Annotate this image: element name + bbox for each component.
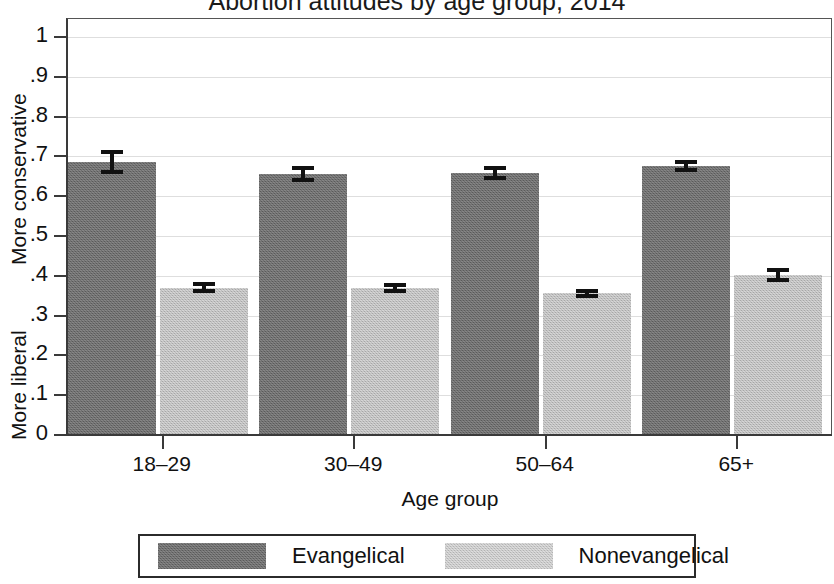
y-axis-tick-label: .8 — [8, 104, 48, 126]
y-axis-tick-label: 0 — [8, 422, 48, 444]
plot-area — [66, 18, 832, 435]
bar-evangelical — [451, 173, 539, 435]
y-axis-tick-label: .5 — [8, 223, 48, 245]
y-axis-tick — [54, 315, 66, 317]
legend-entry-evangelical[interactable]: Evangelical — [158, 543, 405, 569]
error-bar-cap-bottom — [193, 289, 215, 293]
bar-evangelical — [68, 162, 156, 435]
y-axis-tick-label: .7 — [8, 143, 48, 165]
error-bar-cap-bottom — [101, 170, 123, 174]
chart-figure: Abortion attitudes by age group, 2014 Mo… — [0, 0, 834, 584]
bar-nonevangelical — [160, 288, 248, 435]
error-bar-cap-bottom — [675, 168, 697, 172]
error-bar — [642, 160, 730, 173]
error-bar-cap-bottom — [384, 289, 406, 293]
y-axis-tick-label: .6 — [8, 183, 48, 205]
y-axis-tick-label: .3 — [8, 303, 48, 325]
y-axis-tick — [54, 76, 66, 78]
plot-inner — [68, 19, 831, 435]
error-bar — [734, 268, 822, 282]
legend-label-nonevangelical: Nonevangelical — [579, 544, 729, 568]
x-axis-tick — [353, 435, 355, 449]
legend-label-evangelical: Evangelical — [292, 544, 405, 568]
y-axis-tick — [54, 434, 66, 436]
gridline — [68, 156, 831, 157]
y-axis-tick-label: .2 — [8, 342, 48, 364]
error-bar-cap-bottom — [767, 278, 789, 282]
x-axis-tick-label: 65+ — [656, 452, 816, 476]
y-axis-tick-label: 1 — [8, 24, 48, 46]
error-bar — [160, 282, 248, 293]
bar-nonevangelical — [734, 275, 822, 435]
legend-swatch-evangelical — [158, 543, 266, 569]
x-axis-tick — [162, 435, 164, 449]
bar-nonevangelical — [543, 293, 631, 435]
error-bar — [351, 283, 439, 293]
bar-evangelical — [259, 174, 347, 435]
x-axis-tick — [736, 435, 738, 449]
error-bar — [68, 150, 156, 174]
y-axis-tick — [54, 195, 66, 197]
x-axis-line — [66, 434, 832, 436]
x-axis-tick-label: 18–29 — [82, 452, 242, 476]
error-bar — [451, 166, 539, 180]
x-axis-tick-label: 30–49 — [273, 452, 433, 476]
error-bar — [543, 289, 631, 298]
y-axis-tick — [54, 36, 66, 38]
x-axis-tick-label: 50–64 — [465, 452, 625, 476]
y-axis-tick — [54, 235, 66, 237]
bar-nonevangelical — [351, 288, 439, 435]
y-axis-tick — [54, 155, 66, 157]
x-axis-tick — [545, 435, 547, 449]
error-bar — [259, 166, 347, 183]
legend-entry-nonevangelical[interactable]: Nonevangelical — [445, 543, 729, 569]
gridline — [68, 117, 831, 118]
gridline — [68, 37, 831, 38]
legend-swatch-nonevangelical — [445, 543, 553, 569]
x-axis-title: Age group — [66, 487, 834, 511]
bar-evangelical — [642, 166, 730, 435]
y-axis-tick-label: .4 — [8, 263, 48, 285]
y-axis-tick — [54, 116, 66, 118]
error-bar-cap-bottom — [484, 176, 506, 180]
y-axis-tick — [54, 394, 66, 396]
y-axis-tick-label: .1 — [8, 382, 48, 404]
chart-legend: Evangelical Nonevangelical — [138, 534, 696, 578]
gridline — [68, 77, 831, 78]
y-axis-tick — [54, 275, 66, 277]
y-axis-tick-label: .9 — [8, 64, 48, 86]
chart-title: Abortion attitudes by age group, 2014 — [0, 0, 834, 16]
error-bar-cap-bottom — [292, 178, 314, 182]
error-bar-cap-bottom — [576, 294, 598, 298]
y-axis-tick — [54, 354, 66, 356]
